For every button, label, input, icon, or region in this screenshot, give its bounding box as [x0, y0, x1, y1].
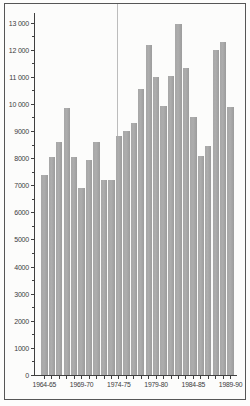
y-minor-tick-11500: [32, 63, 34, 64]
bar-1965-66: [49, 157, 55, 375]
bar-1979-80: [153, 77, 159, 375]
y-minor-tick-5500: [32, 226, 34, 227]
x-tick-1988-89: [223, 376, 224, 379]
bar-1978-79: [146, 45, 152, 376]
y-minor-tick-500: [32, 361, 34, 362]
y-tick-label: 11 000: [2, 73, 29, 82]
x-tick-1971-72: [96, 376, 97, 379]
bar-1984-85: [190, 117, 196, 376]
x-tick-1968-69: [74, 376, 75, 379]
x-tick-1964-65: [44, 376, 45, 379]
y-major-tick-1000: [31, 348, 35, 349]
y-minor-tick-1500: [32, 334, 34, 335]
y-major-tick-11000: [31, 77, 35, 78]
y-tick-label: 3000: [2, 290, 29, 299]
y-tick-label: 6000: [2, 208, 29, 217]
y-major-tick-2000: [31, 321, 35, 322]
bar-1967-68: [64, 108, 70, 375]
y-minor-tick-4500: [32, 253, 34, 254]
y-tick-label: 10 000: [2, 100, 29, 109]
x-tick-1974-75: [118, 376, 119, 379]
y-tick-label: 12 000: [2, 46, 29, 55]
y-major-tick-3000: [31, 294, 35, 295]
x-tick-label: 1964-65: [28, 380, 60, 389]
x-tick-1979-80: [156, 376, 157, 379]
y-minor-tick-7500: [32, 172, 34, 173]
x-tick-1980-81: [163, 376, 164, 379]
bar-1964-65: [41, 175, 47, 376]
x-tick-1975-76: [126, 376, 127, 379]
bar-1969-70: [78, 188, 84, 375]
x-tick-1966-67: [59, 376, 60, 379]
bar-1982-83: [175, 24, 181, 375]
y-major-tick-5000: [31, 239, 35, 240]
y-minor-tick-9500: [32, 117, 34, 118]
x-tick-label: 1979-80: [140, 380, 172, 389]
bar-1971-72: [93, 142, 99, 375]
y-minor-tick-3500: [32, 280, 34, 281]
x-tick-1989-90: [230, 376, 231, 379]
x-tick-1970-71: [89, 376, 90, 379]
y-minor-tick-2500: [32, 307, 34, 308]
x-tick-1969-70: [81, 376, 82, 379]
bar-1974-75: [116, 136, 122, 376]
bar-1986-87: [205, 146, 211, 375]
x-tick-label: 1984-85: [177, 380, 209, 389]
y-tick-label: 9000: [2, 127, 29, 136]
bar-1985-86: [198, 156, 204, 376]
y-major-tick-13000: [31, 23, 35, 24]
bar-1981-82: [168, 76, 174, 376]
y-tick-label: 13 000: [2, 19, 29, 28]
x-tick-1987-88: [215, 376, 216, 379]
y-major-tick-8000: [31, 158, 35, 159]
x-tick-1977-78: [141, 376, 142, 379]
y-major-tick-4000: [31, 267, 35, 268]
bar-1988-89: [220, 42, 226, 376]
bar-1972-73: [101, 180, 107, 375]
bar-1983-84: [183, 68, 189, 376]
bar-1975-76: [123, 131, 129, 375]
y-minor-tick-12500: [32, 36, 34, 37]
y-tick-label: 8000: [2, 154, 29, 163]
y-tick-label: 5000: [2, 235, 29, 244]
y-tick-label: 1000: [2, 344, 29, 353]
y-major-tick-7000: [31, 185, 35, 186]
x-tick-1976-77: [133, 376, 134, 379]
y-major-tick-9000: [31, 131, 35, 132]
y-major-tick-0: [31, 375, 35, 376]
bar-1968-69: [71, 157, 77, 375]
x-tick-1981-82: [171, 376, 172, 379]
bar-1977-78: [138, 89, 144, 375]
y-tick-label: 0: [2, 371, 29, 380]
y-minor-tick-6500: [32, 199, 34, 200]
x-tick-1967-68: [66, 376, 67, 379]
x-tick-1982-83: [178, 376, 179, 379]
y-axis-line: [34, 13, 35, 376]
y-tick-label: 7000: [2, 181, 29, 190]
x-tick-label: 1969-70: [66, 380, 98, 389]
y-minor-tick-10500: [32, 90, 34, 91]
bar-1966-67: [56, 142, 62, 375]
y-tick-label: 4000: [2, 263, 29, 272]
bar-1970-71: [86, 160, 92, 376]
x-tick-1973-74: [111, 376, 112, 379]
bar-1973-74: [108, 180, 114, 375]
y-tick-label: 2000: [2, 317, 29, 326]
y-major-tick-12000: [31, 50, 35, 51]
y-major-tick-10000: [31, 104, 35, 105]
x-tick-1983-84: [185, 376, 186, 379]
bar-1989-90: [227, 107, 233, 375]
y-minor-tick-8500: [32, 145, 34, 146]
x-tick-1972-73: [104, 376, 105, 379]
x-tick-1984-85: [193, 376, 194, 379]
bar-1980-81: [160, 106, 166, 376]
x-tick-1985-86: [200, 376, 201, 379]
x-tick-1978-79: [148, 376, 149, 379]
y-major-tick-6000: [31, 212, 35, 213]
x-tick-label: 1989-90: [215, 380, 247, 389]
x-tick-1965-66: [51, 376, 52, 379]
x-tick-1986-87: [208, 376, 209, 379]
x-tick-label: 1974-75: [103, 380, 135, 389]
bar-1987-88: [213, 50, 219, 375]
bar-1976-77: [131, 123, 137, 375]
